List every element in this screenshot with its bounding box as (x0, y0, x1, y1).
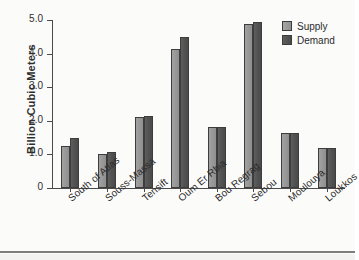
legend-item-supply: Supply (282, 19, 335, 33)
bar-demand (327, 148, 336, 188)
y-tick-label-1: 1.0 (29, 147, 43, 158)
y-tick-label-3: 3.0 (29, 80, 43, 91)
bar-demand (290, 133, 299, 188)
scan-artifact-line (0, 251, 355, 253)
y-tick-label-0: 0 (37, 181, 43, 192)
y-tick-label-5: 5.0 (29, 13, 43, 24)
bar-demand (144, 116, 153, 188)
bar-demand (70, 138, 79, 188)
scan-artifact-band (0, 254, 355, 260)
y-tick-3: 3.0 (47, 87, 52, 88)
legend-label-supply: Supply (297, 21, 328, 32)
y-tick-0: 0 (47, 188, 52, 189)
chart-legend: Supply Demand (282, 19, 335, 47)
bar-supply (171, 49, 180, 188)
y-tick-2: 2.0 (47, 121, 52, 122)
bar-demand (180, 37, 189, 188)
y-axis-line (52, 20, 53, 188)
bar-group (171, 20, 189, 188)
bar-group (61, 20, 79, 188)
legend-swatch-supply-icon (282, 21, 292, 31)
legend-item-demand: Demand (282, 33, 335, 47)
bar-supply (281, 133, 290, 188)
y-tick-4: 4.0 (47, 54, 52, 55)
bar-supply (61, 146, 70, 188)
y-tick-label-2: 2.0 (29, 114, 43, 125)
legend-swatch-demand-icon (282, 35, 292, 45)
legend-label-demand: Demand (297, 35, 335, 46)
y-tick-label-4: 4.0 (29, 47, 43, 58)
y-tick-1: 1.0 (47, 154, 52, 155)
y-tick-5: 5.0 (47, 20, 52, 21)
